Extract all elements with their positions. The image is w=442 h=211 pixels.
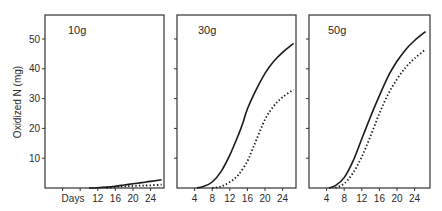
x-tick-label: 24 — [409, 193, 421, 204]
dotted-curve — [212, 90, 293, 188]
x-tick-label: 16 — [374, 193, 386, 204]
panel-title: 30g — [198, 24, 216, 36]
curves — [89, 180, 162, 188]
x-tick-label: 24 — [277, 193, 289, 204]
panel-50g: 50g 4 8 12 16 20 24 — [306, 15, 430, 204]
curves — [329, 32, 426, 188]
dotted-curve — [335, 49, 425, 188]
y-axis-label: Oxidized N (mg) — [12, 66, 23, 138]
x-tick-label: 20 — [391, 193, 403, 204]
x-tick-label: 4 — [324, 193, 330, 204]
x-tick-label: 24 — [145, 193, 157, 204]
y-tick-label: 30 — [29, 93, 41, 104]
panel-title: 10g — [68, 24, 86, 36]
axis-ticks — [42, 39, 151, 191]
x-tick-label: 12 — [356, 193, 368, 204]
y-tick-label: 50 — [29, 34, 41, 45]
x-tick-label: 8 — [209, 193, 215, 204]
x-tick-label: 16 — [110, 193, 122, 204]
curves — [197, 44, 294, 189]
x-tick-labels: 4 8 12 16 20 24 — [324, 193, 421, 204]
x-tick-label: 16 — [242, 193, 254, 204]
panel-frame — [45, 15, 164, 188]
x-tick-label: 4 — [192, 193, 198, 204]
x-tick-label: 8 — [341, 193, 347, 204]
axis-ticks — [306, 39, 415, 191]
panel-frame — [177, 15, 296, 188]
panel-30g: 30g 4 8 12 16 20 24 — [174, 15, 296, 204]
panel-frame — [309, 15, 430, 188]
y-tick-label: 40 — [29, 63, 41, 74]
x-tick-label: 12 — [224, 193, 236, 204]
x-tick-label: 12 — [92, 193, 104, 204]
x-axis-label-days: Days — [62, 193, 85, 204]
x-tick-labels: 4 8 12 16 20 24 — [192, 193, 289, 204]
figure: Oxidized N (mg) 10 20 30 40 50 Days 10g … — [0, 0, 442, 211]
y-tick-label: 20 — [29, 123, 41, 134]
panel-10g: 10g 12 16 20 24 — [42, 15, 164, 204]
x-tick-label: 20 — [259, 193, 271, 204]
axis-ticks — [174, 39, 283, 191]
x-tick-labels: 12 16 20 24 — [92, 193, 156, 204]
solid-curve — [329, 32, 426, 188]
y-tick-label: 10 — [29, 153, 41, 164]
panel-title: 50g — [328, 24, 346, 36]
y-tick-labels: 10 20 30 40 50 — [29, 34, 41, 164]
x-tick-label: 20 — [127, 193, 139, 204]
